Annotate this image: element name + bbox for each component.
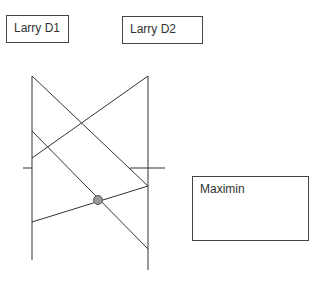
maximin-point — [94, 196, 103, 205]
payoff-line-1 — [32, 76, 148, 186]
strategy-diagram — [0, 0, 329, 283]
payoff-line-2 — [32, 76, 148, 158]
payoff-line-4 — [32, 186, 148, 222]
payoff-line-3 — [32, 131, 148, 249]
